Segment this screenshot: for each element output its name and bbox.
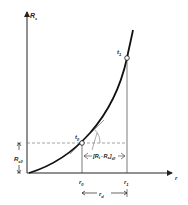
point-t0 [80,141,85,146]
x-axis-label: r [175,175,178,181]
label-t1: t1 [117,49,122,57]
y-axis-label: Rs [30,12,38,21]
diagram-canvas: Rs r t1 t0 r0 r1 Rs0 rd [Rt-Rs]t0 [0,0,188,205]
label-rd: rd [99,191,104,199]
point-t1 [125,56,130,61]
label-r0: r0 [79,179,84,187]
label-rs0: Rs0 [14,156,24,164]
bottom-dimension [82,189,127,197]
label-t0: t0 [75,134,80,142]
bracket-label: [Rt-Rs]t0 [92,153,116,161]
angle-leader [92,133,97,150]
label-r1: r1 [124,179,129,187]
